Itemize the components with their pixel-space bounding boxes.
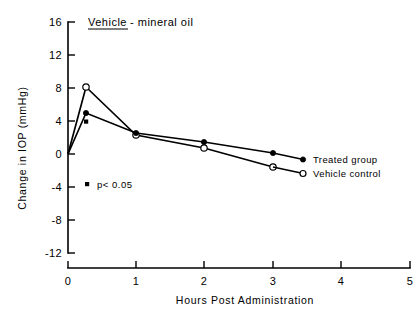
x-tick-label-0: 0 — [65, 275, 72, 287]
chart-title-underlined-word: Vehicle — [88, 16, 127, 28]
data-point-treated-group-1h — [133, 130, 138, 135]
footnote-text: p< 0.05 — [97, 179, 132, 190]
legend-marker-vehicle-control — [300, 171, 306, 177]
y-tick-label-0: 0 — [55, 148, 62, 160]
data-point-vehicle-control-0.27h — [83, 84, 89, 90]
y-tick-label-16: 16 — [49, 16, 62, 28]
chart-figure: 16 12 8 4 0 -4 -8 -12 Change in IOP (mmH… — [0, 0, 420, 312]
y-axis: 16 12 8 4 0 -4 -8 -12 Change in IOP (mmH… — [16, 16, 75, 259]
legend-label-treated-group: Treated group — [313, 154, 378, 165]
x-tick-label-3: 3 — [270, 275, 277, 287]
data-point-vehicle-control-2h — [201, 145, 207, 151]
x-tick-label-1: 1 — [133, 275, 140, 287]
chart-legend: Treated group Vehicle control — [273, 153, 381, 179]
x-ticks — [136, 261, 410, 268]
x-tick-label-2: 2 — [201, 275, 208, 287]
y-tick-labels: 16 12 8 4 0 -4 -8 -12 — [45, 16, 62, 259]
legend-leader-treated-group — [273, 153, 301, 159]
footnote-asterisk-icon — [85, 182, 89, 186]
legend-marker-treated-group — [300, 157, 305, 162]
significance-asterisk-icon — [84, 120, 88, 124]
chart-title-rest: - mineral oil — [130, 16, 193, 28]
legend-label-vehicle-control: Vehicle control — [313, 168, 381, 179]
y-axis-title: Change in IOP (mmHg) — [16, 86, 28, 210]
data-point-treated-group-0.27h — [83, 110, 88, 115]
x-axis: 0 1 2 3 4 5 Hours Post Administration — [65, 261, 414, 306]
y-tick-label-8: 8 — [55, 82, 62, 94]
series-treated-group — [68, 110, 276, 155]
y-tick-label-12: 12 — [49, 49, 62, 61]
y-tick-label-neg12: -12 — [45, 247, 62, 259]
data-point-treated-group-2h — [201, 139, 206, 144]
y-ticks — [68, 55, 75, 220]
legend-leader-vehicle-control — [273, 167, 301, 173]
y-tick-label-neg4: -4 — [51, 181, 62, 193]
x-axis-title: Hours Post Administration — [176, 294, 314, 306]
x-tick-labels: 0 1 2 3 4 5 — [65, 275, 414, 287]
significance-footnote: p< 0.05 — [85, 179, 132, 190]
y-tick-label-neg8: -8 — [51, 214, 62, 226]
series-line-treated-group — [68, 113, 273, 154]
chart-title-group: Vehicle - mineral oil — [88, 16, 193, 29]
x-tick-label-4: 4 — [338, 275, 345, 287]
series-vehicle-control — [68, 84, 276, 170]
series-line-vehicle-control — [68, 87, 273, 167]
y-tick-label-4: 4 — [55, 115, 62, 127]
line-chart: 16 12 8 4 0 -4 -8 -12 Change in IOP (mmH… — [0, 0, 420, 312]
x-tick-label-5: 5 — [407, 275, 414, 287]
